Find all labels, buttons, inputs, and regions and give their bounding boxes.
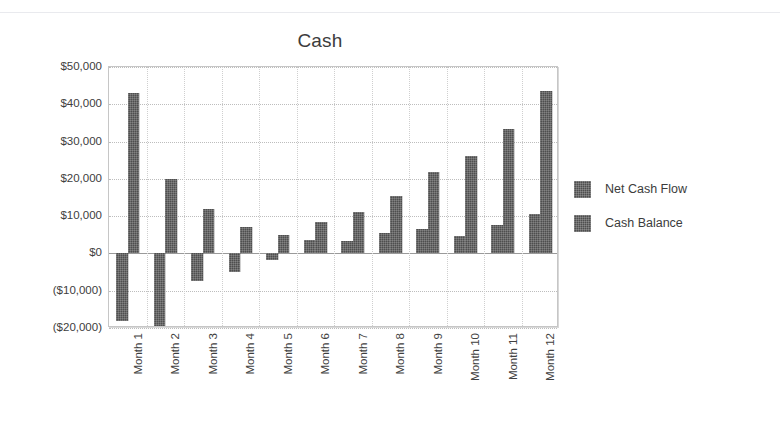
- x-axis-tick-label: Month 11: [507, 333, 519, 380]
- y-axis: $50,000$40,000$30,000$20,000$10,000$0($1…: [0, 66, 102, 327]
- bar-net-cash-flow: [191, 253, 203, 281]
- bar-net-cash-flow: [454, 236, 466, 254]
- x-axis-tick-label: Month 12: [544, 333, 556, 381]
- bar-cash-balance: [203, 209, 215, 254]
- legend-item-label: Net Cash Flow: [605, 182, 687, 196]
- bar-net-cash-flow: [491, 225, 503, 253]
- x-axis-tick-label: Month 3: [207, 333, 219, 375]
- bar-net-cash-flow: [529, 214, 541, 253]
- x-axis: Month 1Month 2Month 3Month 4Month 5Month…: [108, 329, 558, 429]
- chart-title: Cash: [120, 30, 520, 52]
- x-axis-tick-label: Month 7: [357, 333, 369, 375]
- bar-cash-balance: [390, 196, 402, 254]
- x-axis-tick-label: Month 2: [169, 333, 181, 375]
- bar-net-cash-flow: [154, 253, 166, 326]
- chart-legend: Net Cash FlowCash Balance: [574, 172, 774, 240]
- y-axis-tick-label: $30,000: [4, 135, 102, 147]
- bar-cash-balance: [428, 172, 440, 253]
- cash-bar-chart: Cash $50,000$40,000$30,000$20,000$10,000…: [0, 0, 780, 437]
- bar-cash-balance: [278, 235, 290, 254]
- y-axis-tick-label: $40,000: [4, 97, 102, 109]
- y-axis-tick-label: $50,000: [4, 60, 102, 72]
- bar-net-cash-flow: [229, 253, 241, 272]
- bar-net-cash-flow: [266, 253, 278, 260]
- bar-cash-balance: [240, 227, 252, 254]
- legend-item-label: Cash Balance: [605, 216, 683, 230]
- y-axis-tick-label: ($10,000): [4, 284, 102, 296]
- bar-cash-balance: [540, 91, 552, 253]
- plot-area: [108, 66, 558, 327]
- x-axis-tick-label: Month 4: [244, 333, 256, 375]
- bar-cash-balance: [315, 222, 327, 253]
- bar-net-cash-flow: [416, 229, 428, 253]
- legend-item: Net Cash Flow: [574, 172, 774, 206]
- bars-layer: [109, 67, 557, 326]
- y-axis-tick-label: $0: [4, 246, 102, 258]
- y-axis-tick-label: $20,000: [4, 172, 102, 184]
- y-axis-tick-label: ($20,000): [4, 321, 102, 333]
- bar-net-cash-flow: [341, 241, 353, 253]
- bar-cash-balance: [128, 93, 140, 253]
- bar-cash-balance: [353, 212, 365, 253]
- x-axis-tick-label: Month 6: [319, 333, 331, 375]
- bar-cash-balance: [465, 156, 477, 253]
- x-axis-tick-label: Month 1: [132, 333, 144, 375]
- bar-net-cash-flow: [379, 233, 391, 254]
- legend-swatch-icon: [574, 181, 591, 198]
- legend-swatch-icon: [574, 215, 591, 232]
- bar-net-cash-flow: [304, 240, 316, 253]
- x-axis-tick-label: Month 9: [432, 333, 444, 375]
- bar-cash-balance: [165, 179, 177, 254]
- bar-net-cash-flow: [116, 253, 128, 320]
- bar-cash-balance: [503, 129, 515, 254]
- x-axis-tick-label: Month 8: [394, 333, 406, 375]
- x-axis-tick-label: Month 5: [282, 333, 294, 375]
- x-axis-tick-label: Month 10: [469, 333, 481, 381]
- legend-item: Cash Balance: [574, 206, 774, 240]
- y-axis-tick-label: $10,000: [4, 209, 102, 221]
